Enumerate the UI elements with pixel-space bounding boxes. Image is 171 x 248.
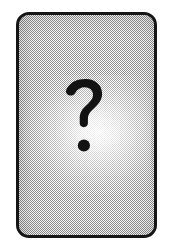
card-texture — [19, 15, 154, 235]
placeholder-card[interactable] — [16, 12, 157, 238]
canvas — [0, 0, 171, 248]
